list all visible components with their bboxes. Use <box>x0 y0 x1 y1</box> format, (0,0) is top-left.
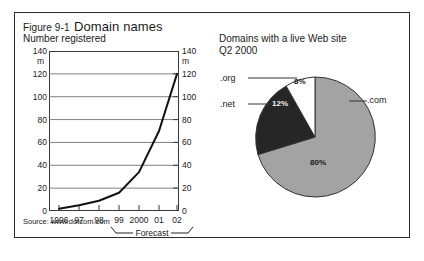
pie-label-com: .com <box>367 95 387 105</box>
forecast-bracket: Forecast <box>109 226 195 240</box>
pie-chart-panel: Domains with a live Web site Q2 2000 80%… <box>219 33 403 223</box>
y-axis-right-label-20: 20 <box>182 184 206 193</box>
y-axis-label-60: 60 <box>23 138 47 147</box>
figure-number: Figure 9-1 <box>23 22 70 33</box>
figure-frame: Figure 9-1 Domain names Number registere… <box>14 12 410 238</box>
line-chart-panel: Number registered <box>23 33 219 233</box>
line-chart-subtitle: Number registered <box>23 33 106 44</box>
pie-value-org: 8% <box>294 77 306 86</box>
pie-label-org: .org <box>220 73 236 83</box>
y-axis-right-label-140: 140 <box>182 47 206 56</box>
y-axis-right-label-60: 60 <box>182 138 206 147</box>
y-axis-label-140: 140 <box>23 47 47 56</box>
x-axis-label-02: 02 <box>163 215 191 225</box>
pie-chart-svg <box>219 59 403 219</box>
forecast-label: Forecast <box>109 228 195 238</box>
y-axis-label-0: 0 <box>23 207 47 216</box>
pie-chart-subtitle: Q2 2000 <box>219 45 257 56</box>
y-axis-label-20: 20 <box>23 184 47 193</box>
y-axis-unit-right: m <box>182 57 189 66</box>
page-title: Domain names <box>74 19 163 34</box>
y-axis-unit-left: m <box>37 57 44 66</box>
pie-chart-title: Domains with a live Web site <box>219 33 347 44</box>
y-axis-label-80: 80 <box>23 116 47 125</box>
pie-slices <box>256 77 376 197</box>
y-axis-label-40: 40 <box>23 161 47 170</box>
source-note: Source: www.dotcom.com <box>23 217 110 226</box>
line-chart-svg <box>49 51 179 211</box>
pie-label-net: .net <box>220 99 235 109</box>
y-axis-ticks-right <box>173 51 179 188</box>
pie-value-com: 80% <box>310 158 326 167</box>
y-axis-right-label-40: 40 <box>182 161 206 170</box>
y-axis-label-120: 120 <box>23 70 47 79</box>
pie-value-net: 12% <box>272 99 288 108</box>
y-axis-label-100: 100 <box>23 93 47 102</box>
y-axis-right-label-80: 80 <box>182 116 206 125</box>
y-axis-right-label-120: 120 <box>182 70 206 79</box>
y-axis-right-label-100: 100 <box>182 93 206 102</box>
